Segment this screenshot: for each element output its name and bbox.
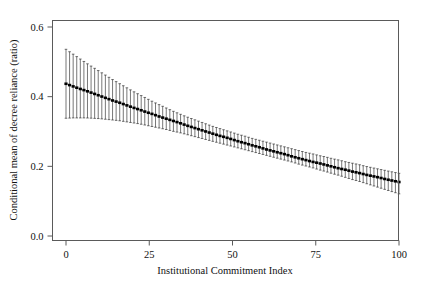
x-tick-label: 0 [63, 249, 68, 260]
x-tick-label: 50 [227, 249, 238, 260]
y-tick-label: 0.4 [30, 91, 44, 102]
mean-point-group [64, 82, 400, 183]
axis-frame [53, 21, 399, 241]
y-tick-label: 0.2 [30, 161, 43, 172]
x-tick-label: 75 [311, 249, 322, 260]
x-axis-ticks: 0255075100 [63, 241, 407, 260]
y-tick-label: 0.6 [30, 22, 43, 33]
x-axis-title: Institutional Commitment Index [157, 265, 293, 276]
x-tick-label: 25 [144, 249, 155, 260]
chart-figure: 0255075100 0.00.20.40.6 Institutional Co… [0, 0, 427, 290]
y-axis-title: Conditional mean of decree reliance (rat… [8, 39, 20, 221]
error-bar-group [65, 49, 401, 194]
y-axis-ticks: 0.00.20.40.6 [30, 22, 52, 242]
x-tick-label: 100 [391, 249, 407, 260]
chart-plot-area: 0255075100 0.00.20.40.6 Institutional Co… [0, 0, 427, 290]
y-tick-label: 0.0 [30, 231, 43, 242]
